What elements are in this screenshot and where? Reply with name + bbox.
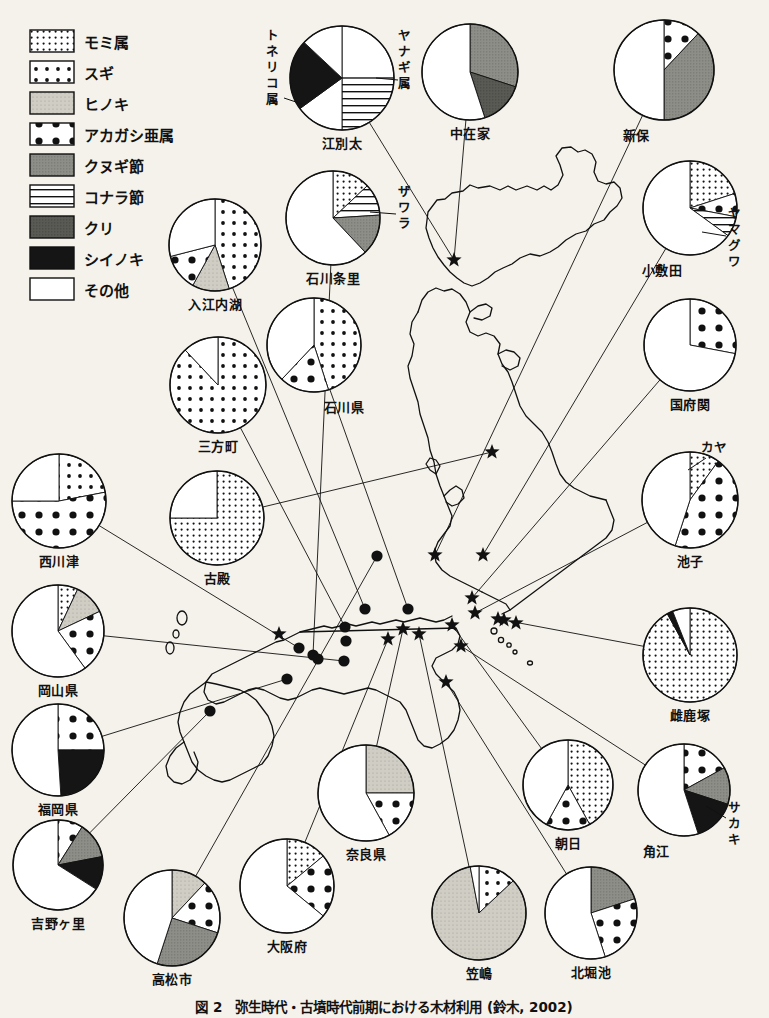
legend-label: アカガシ亜属: [84, 127, 174, 145]
pie-label: 新保: [623, 128, 651, 143]
legend-swatch: [30, 92, 74, 114]
pie-label: 岡山県: [38, 683, 79, 698]
map-dot-marker: [371, 550, 382, 561]
map-dot-marker: [281, 673, 292, 684]
callout-label: ヤナギ属: [398, 28, 411, 91]
pie-label: 雌鹿塚: [670, 708, 711, 723]
figure-caption: 図 2 弥生時代・古墳時代前期における木材利用 (鈴木, 2002): [195, 999, 573, 1015]
pie-label: 入江内湖: [188, 297, 242, 312]
map-dot-marker: [340, 635, 351, 646]
pie-label: 角江: [643, 844, 670, 859]
pie-label: 奈良県: [345, 847, 387, 862]
pie-label: 福岡県: [37, 802, 79, 817]
legend-item: コナラ節: [30, 185, 144, 207]
legend-item: スギ: [30, 61, 114, 83]
legend-swatch: [30, 247, 74, 269]
pie-label: 中在家: [450, 126, 491, 141]
pie-label: 江別太: [322, 136, 363, 151]
legend-swatch: [30, 278, 74, 300]
legend-label: スギ: [84, 65, 114, 83]
pie-map-figure: 江別太中在家新保小敷田国府関池子雌鹿塚角江朝日北堀池笠嶋奈良県大阪府高松市吉野ヶ…: [0, 0, 769, 1018]
pie-label: 池子: [677, 554, 704, 569]
legend-label: ヒノキ: [84, 96, 129, 114]
legend-label: その他: [84, 282, 129, 300]
map-dot-marker: [359, 603, 370, 614]
legend-label: シイノキ: [84, 251, 144, 269]
legend-item: クリ: [30, 216, 114, 238]
legend-item: アカガシ亜属: [30, 123, 174, 145]
pie-label: 三方町: [198, 439, 239, 454]
pie-label: 北堀池: [571, 965, 612, 980]
pie-label: 国府関: [670, 397, 711, 412]
legend-item: クヌギ節: [30, 154, 144, 176]
pie-label: 古殿: [204, 571, 232, 586]
pie-label: 吉野ヶ里: [31, 916, 85, 931]
legend-item: シイノキ: [30, 247, 144, 269]
callout-label: トネリコ属: [266, 28, 279, 107]
figure-canvas: 江別太中在家新保小敷田国府関池子雌鹿塚角江朝日北堀池笠嶋奈良県大阪府高松市吉野ヶ…: [0, 0, 769, 1018]
callout-label: サカキ: [728, 800, 741, 847]
legend-swatch: [30, 185, 74, 207]
callout-label: ヤマグワ: [728, 206, 741, 269]
map-dot-marker: [338, 655, 349, 666]
pie-label: 石川条里: [305, 271, 360, 286]
callout-label: ザワラ: [398, 184, 411, 231]
legend-swatch: [30, 30, 74, 52]
pie-label: 高松市: [152, 972, 193, 987]
legend-swatch: [30, 154, 74, 176]
map-dot-marker: [312, 653, 323, 664]
pie-label: 大阪府: [267, 939, 308, 954]
legend-swatch: [30, 123, 74, 145]
map-dot-marker: [293, 642, 304, 653]
legend-swatch: [30, 216, 74, 238]
map-dot-marker: [339, 621, 350, 632]
pie-label: 西川津: [39, 554, 80, 569]
pie-label: 小敷田: [642, 263, 683, 278]
pie-label: 笠嶋: [465, 966, 493, 981]
pie-label: 石川県: [323, 400, 365, 415]
legend-label: コナラ節: [84, 189, 144, 207]
callout-label: カヤ: [701, 440, 727, 455]
map-dot-marker: [204, 705, 215, 716]
pie-label: 朝日: [555, 836, 582, 851]
legend-swatch: [30, 61, 74, 83]
legend-label: モミ属: [84, 34, 129, 52]
legend-label: クヌギ節: [84, 158, 144, 176]
legend-label: クリ: [84, 220, 114, 238]
map-dot-marker: [402, 603, 413, 614]
